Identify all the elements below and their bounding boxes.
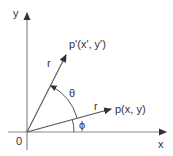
rotated-length-label: r [47,57,51,69]
phi-arc [72,120,74,132]
x-axis-label: x [158,138,164,150]
original-length-label: r [94,100,98,112]
phi-label: ϕ [79,119,85,131]
rotation-diagram: y x 0 p'(x', y') r p(x, y) r θ ϕ [0,0,173,156]
original-point-label: p(x, y) [115,103,146,115]
vector-original [27,109,111,132]
y-axis-label: y [13,7,19,19]
theta-label: θ [69,87,75,99]
rotated-point-label: p'(x', y') [69,38,106,50]
origin-label: 0 [16,135,22,147]
